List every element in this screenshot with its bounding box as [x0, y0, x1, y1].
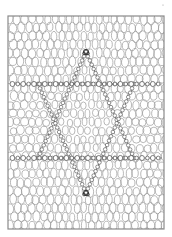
band-bead [107, 81, 112, 86]
triangle-bead [73, 76, 77, 80]
triangle-bead [82, 187, 86, 191]
band-bead [135, 82, 139, 86]
triangle-bead [59, 105, 63, 109]
triangle-bead [88, 59, 92, 63]
triangle-bead [90, 178, 94, 182]
triangle-bead [67, 88, 71, 92]
triangle-bead [50, 127, 54, 131]
triangle-bead [128, 148, 132, 152]
triangle-bead [115, 121, 119, 125]
triangle-bead [121, 108, 125, 112]
band-bead [102, 156, 106, 160]
triangle-bead [96, 165, 100, 169]
band-bead [118, 81, 123, 86]
triangle-bead [42, 143, 46, 147]
triangle-bead [71, 161, 75, 165]
band-bead [96, 155, 101, 160]
triangle-bead [57, 130, 61, 134]
triangle-bead [42, 95, 46, 99]
band-bead [86, 155, 91, 160]
triangle-bead [86, 187, 90, 191]
triangle-bead [105, 97, 109, 101]
triangle-bead [109, 105, 113, 109]
triangle-bead [78, 178, 82, 182]
triangle-bead [65, 148, 69, 152]
triangle-bead [103, 148, 107, 152]
triangle-bead [77, 67, 81, 71]
band-bead [92, 156, 96, 160]
triangle-bead [130, 152, 134, 156]
triangle-bead [63, 97, 67, 101]
triangle-bead [57, 110, 61, 114]
triangle-bead [96, 76, 100, 80]
lace-hexagram-illustration [0, 0, 172, 237]
band-bead [113, 82, 117, 86]
triangle-bead [111, 130, 115, 134]
triangle-bead [90, 63, 94, 67]
triangle-bead [128, 91, 132, 95]
triangle-bead [75, 169, 79, 173]
band-bead [27, 156, 31, 160]
band-bead [38, 156, 42, 160]
triangle-bead [55, 126, 59, 130]
band-bead [70, 156, 74, 160]
triangle-bead [123, 104, 127, 108]
band-bead [53, 155, 58, 160]
triangle-bead [126, 95, 130, 99]
triangle-bead [80, 182, 84, 186]
band-bead [113, 156, 117, 160]
band-bead [10, 155, 15, 160]
band-bead [27, 82, 31, 86]
triangle-bead [52, 117, 56, 121]
triangle-bead [101, 88, 105, 92]
triangle-bead [92, 174, 96, 178]
band-bead [146, 156, 150, 160]
triangle-bead [46, 104, 50, 108]
band-bead [96, 81, 101, 86]
triangle-bead [50, 113, 54, 117]
triangle-bead [38, 87, 42, 91]
triangle-bead [67, 152, 71, 156]
triangle-bead [61, 139, 65, 143]
band-bead [32, 81, 37, 86]
corner-speck-mark [162, 4, 163, 5]
band-bead [16, 156, 20, 160]
triangle-bead [63, 143, 67, 147]
triangle-bead [59, 135, 63, 139]
band-bead [75, 155, 80, 160]
band-bead [118, 155, 123, 160]
triangle-bead [98, 161, 102, 165]
triangle-bead [77, 174, 81, 178]
band-bead [107, 155, 112, 160]
band-bead [129, 81, 134, 86]
triangle-bead [61, 101, 65, 105]
band-bead [156, 156, 160, 160]
triangle-bead [126, 143, 130, 147]
triangle-bead [113, 114, 117, 118]
triangle-bead [123, 135, 127, 139]
band-bead [124, 82, 128, 86]
triangle-bead [103, 93, 107, 97]
band-bead [156, 82, 160, 86]
band-bead [32, 155, 37, 160]
triangle-bead [107, 101, 111, 105]
triangle-bead [101, 152, 105, 156]
triangle-bead [125, 139, 129, 143]
band-bead [48, 156, 52, 160]
triangle-bead [48, 131, 52, 135]
triangle-bead [92, 67, 96, 71]
triangle-bead [94, 71, 98, 75]
band-bead [75, 81, 80, 86]
triangle-bead [38, 152, 42, 156]
band-bead [140, 81, 145, 86]
band-bead [21, 81, 26, 86]
triangle-bead [94, 169, 98, 173]
triangle-bead [46, 135, 50, 139]
band-bead [150, 81, 155, 86]
triangle-bead [44, 139, 48, 143]
band-bead [86, 81, 91, 86]
band-bead [102, 82, 106, 86]
band-bead [64, 81, 69, 86]
triangle-bead [65, 93, 69, 97]
triangle-bead [119, 127, 123, 131]
